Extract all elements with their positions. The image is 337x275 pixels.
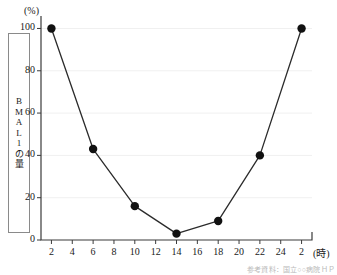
y-tick-label: 80 xyxy=(1,64,35,75)
gridlines xyxy=(41,28,312,197)
y-tick-label: 100 xyxy=(1,21,35,32)
data-point-markers xyxy=(47,24,306,238)
data-series-bmal1 xyxy=(51,28,301,233)
y-tick-label: 60 xyxy=(1,106,35,117)
chart-container: B M A L 1 の 量 (%) (時) 020406080100 24681… xyxy=(0,0,337,275)
y-tick-label: 20 xyxy=(1,191,35,202)
axis-lines xyxy=(41,16,312,240)
plot-area xyxy=(0,0,337,275)
y-tick-label: 40 xyxy=(1,148,35,159)
x-tick-label: 2 xyxy=(290,246,314,257)
axis-ticks xyxy=(37,28,302,244)
attribution-text: 参考資料：国立○○病院ＨＰ xyxy=(247,264,335,274)
y-tick-label: 0 xyxy=(1,233,35,244)
